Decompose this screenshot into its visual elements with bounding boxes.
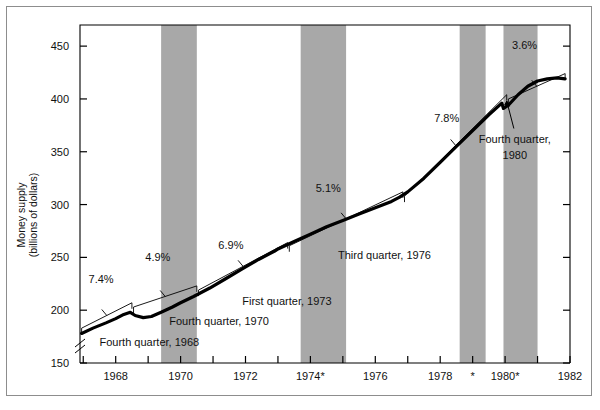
recession-band xyxy=(161,25,197,363)
recession-band xyxy=(460,25,486,363)
trend-callout-stub xyxy=(451,139,456,145)
growth-rate-annotation: 7.4% xyxy=(89,273,114,285)
growth-rate-annotation: 5.1% xyxy=(316,182,341,194)
y-axis-title-line2: (billions of dollars) xyxy=(27,173,39,258)
y-axis-title: Money supply (billions of dollars) xyxy=(15,173,39,258)
x-tick-label: * xyxy=(471,370,476,382)
x-tick-label: 1978 xyxy=(428,370,452,382)
growth-rate-annotation: 3.6% xyxy=(512,39,537,51)
point-annotation: Fourth quarter, xyxy=(479,133,551,145)
x-tick-label: 1972 xyxy=(233,370,257,382)
x-tick-label: 1982 xyxy=(558,370,582,382)
y-tick-label: 150 xyxy=(51,357,69,369)
point-annotation: Fourth quarter, 1970 xyxy=(169,315,269,327)
y-axis-title-line1: Money supply xyxy=(15,182,27,248)
growth-rate-annotation: 7.8% xyxy=(434,112,459,124)
money-supply-line-chart: 150200250300350400450 1968197019721974*1… xyxy=(0,0,600,410)
chart-figure: 150200250300350400450 1968197019721974*1… xyxy=(0,0,600,410)
x-tick-label: 1976 xyxy=(363,370,387,382)
x-tick-label: 1968 xyxy=(103,370,127,382)
x-tick-label: 1974* xyxy=(296,370,325,382)
recession-bands-group xyxy=(161,25,537,363)
growth-rate-annotation: 6.9% xyxy=(218,239,243,251)
point-annotation: First quarter, 1973 xyxy=(242,295,331,307)
recession-band xyxy=(301,25,346,363)
trend-callout-stub xyxy=(102,309,107,315)
y-tick-label: 200 xyxy=(51,304,69,316)
x-tick-label: 1980* xyxy=(491,370,520,382)
y-tick-label: 450 xyxy=(51,40,69,52)
y-tick-label: 350 xyxy=(51,146,69,158)
point-annotation: Third quarter, 1976 xyxy=(338,249,431,261)
y-tick-label: 250 xyxy=(51,251,69,263)
point-annotation: Fourth quarter, 1968 xyxy=(99,336,199,348)
point-annotation: 1980 xyxy=(503,149,527,161)
growth-rate-annotation: 4.9% xyxy=(145,251,170,263)
y-tick-label: 400 xyxy=(51,93,69,105)
y-tick-label: 300 xyxy=(51,199,69,211)
x-tick-label: 1970 xyxy=(168,370,192,382)
recession-band xyxy=(503,25,537,363)
trend-callout-stub xyxy=(238,260,243,266)
